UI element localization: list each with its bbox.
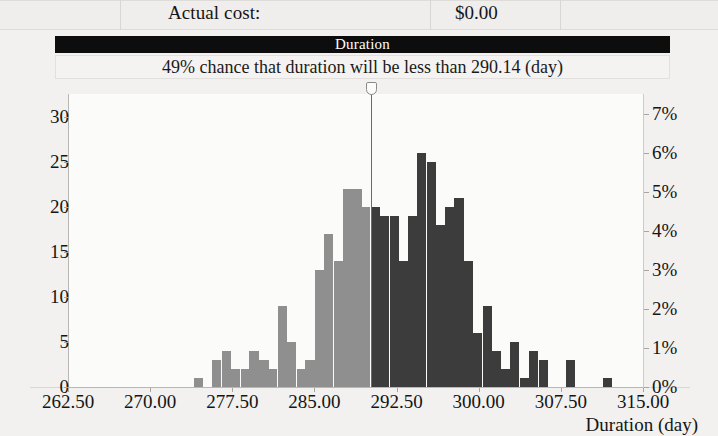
histogram-bar xyxy=(603,378,612,387)
y-axis-tick-mark-right xyxy=(644,348,649,349)
histogram-bar xyxy=(566,360,575,387)
y-axis-tick-left: 30 xyxy=(23,107,69,126)
histogram-bar xyxy=(454,198,463,387)
histogram-bar xyxy=(343,189,352,387)
histogram-bar xyxy=(194,378,203,387)
histogram-bar xyxy=(361,207,370,387)
y-axis-tick-mark-right xyxy=(644,387,649,388)
y-axis-tick-left: 20 xyxy=(23,197,69,216)
histogram-bar xyxy=(305,360,314,387)
y-axis-tick-mark-left xyxy=(64,117,69,118)
histogram-bar xyxy=(212,360,221,387)
x-axis-tick: 270.00 xyxy=(110,392,190,411)
y-axis-tick-mark-left xyxy=(64,207,69,208)
histogram-bar xyxy=(268,369,277,387)
actual-cost-row: Actual cost: $0.00 xyxy=(0,0,718,30)
y-axis-tick-right: 2% xyxy=(652,299,712,318)
histogram-bar xyxy=(231,369,240,387)
histogram-bar xyxy=(324,234,333,387)
plot-area xyxy=(68,94,644,388)
x-axis-tick: 300.00 xyxy=(439,392,519,411)
slider-handle-icon[interactable] xyxy=(366,82,377,95)
histogram-bar xyxy=(398,261,407,387)
y-axis-tick-mark-left xyxy=(64,297,69,298)
x-axis-tick-mark xyxy=(397,388,398,392)
x-axis-tick-mark xyxy=(232,388,233,392)
x-axis-tick: 262.50 xyxy=(28,392,108,411)
y-axis-tick-mark-left xyxy=(64,252,69,253)
actual-cost-label: Actual cost: xyxy=(168,2,260,24)
y-axis-tick-right: 6% xyxy=(652,143,712,162)
costrow-bottom-rule xyxy=(0,29,718,30)
probability-statement: 49% chance that duration will be less th… xyxy=(55,55,670,79)
histogram-bar xyxy=(473,333,482,387)
actual-cost-value: $0.00 xyxy=(455,2,498,24)
y-axis-tick-right: 3% xyxy=(652,260,712,279)
certainty-marker-line[interactable] xyxy=(371,90,372,387)
x-axis-tick: 285.00 xyxy=(274,392,354,411)
y-axis-tick-right: 5% xyxy=(652,182,712,201)
x-axis-tick-mark xyxy=(150,388,151,392)
costrow-divider-right xyxy=(560,0,561,30)
histogram-bar xyxy=(287,342,296,387)
y-axis-tick-right: 1% xyxy=(652,338,712,357)
x-axis-tick: 315.00 xyxy=(603,392,683,411)
y-axis-tick-left: 25 xyxy=(23,152,69,171)
y-axis-tick-right: 4% xyxy=(652,221,712,240)
x-axis-tick-mark xyxy=(561,388,562,392)
histogram-bar xyxy=(436,225,445,387)
histogram-bar xyxy=(380,216,389,387)
y-axis-tick-mark-right xyxy=(644,192,649,193)
x-axis-tick-mark xyxy=(643,388,644,392)
y-axis-tick-mark-right xyxy=(644,114,649,115)
histogram-bar xyxy=(491,351,500,387)
x-axis-tick-mark xyxy=(68,388,69,392)
costrow-divider-left xyxy=(120,0,121,30)
y-axis-tick-left: 5 xyxy=(23,332,69,351)
x-axis-tick: 292.50 xyxy=(357,392,437,411)
histogram-bar xyxy=(539,360,548,387)
y-axis-tick-mark-left xyxy=(64,342,69,343)
costrow-divider-mid xyxy=(430,0,431,30)
costrow-top-rule xyxy=(0,0,718,1)
histogram-bar xyxy=(417,153,426,387)
y-axis-tick-mark-right xyxy=(644,309,649,310)
y-axis-tick-mark-right xyxy=(644,153,649,154)
y-axis-tick-left: 10 xyxy=(23,287,69,306)
histogram-bar xyxy=(510,342,519,387)
y-axis-tick-mark-right xyxy=(644,231,649,232)
x-axis-tick: 277.50 xyxy=(192,392,272,411)
histogram-bars xyxy=(69,94,644,387)
x-axis-title: Duration (day) xyxy=(0,414,718,436)
x-axis-tick: 307.50 xyxy=(521,392,601,411)
y-axis-tick-right: 7% xyxy=(652,104,712,123)
x-axis-tick-mark xyxy=(479,388,480,392)
chart-title-bar: Duration xyxy=(55,36,670,53)
duration-histogram: 0510152025300%1%2%3%4%5%6%7%262.50270.00… xyxy=(0,82,718,426)
histogram-bar xyxy=(529,351,538,387)
plot-right-border xyxy=(643,94,644,388)
histogram-bar xyxy=(249,351,258,387)
y-axis-tick-mark-right xyxy=(644,270,649,271)
y-axis-tick-left: 15 xyxy=(23,242,69,261)
y-axis-tick-mark-left xyxy=(64,162,69,163)
x-axis-tick-mark xyxy=(314,388,315,392)
